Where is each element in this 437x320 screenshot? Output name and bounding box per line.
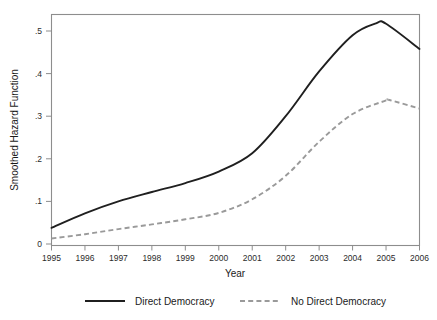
legend-label-no-direct-democracy: No Direct Democracy <box>291 296 386 307</box>
y-tick-label-5: .5 <box>35 26 42 36</box>
x-tick-label-1996: 1996 <box>75 253 94 263</box>
y-axis-title: Smoothed Hazard Function <box>9 69 20 191</box>
plot-frame <box>52 15 420 246</box>
x-tick-label-2000: 2000 <box>209 253 228 263</box>
hazard-function-chart: 0 .1 .2 .3 .4 .5 Smoothed Hazard Functio… <box>0 0 437 320</box>
series-line-no-direct-democracy <box>52 99 420 239</box>
y-tick-label-4: .4 <box>35 69 42 79</box>
x-tick-label-1998: 1998 <box>142 253 161 263</box>
x-axis-title: Year <box>225 268 246 279</box>
x-tick-label-1995: 1995 <box>42 253 61 263</box>
x-tick-label-2004: 2004 <box>343 253 362 263</box>
series-line-direct-democracy <box>52 21 420 228</box>
y-tick-label-2: .2 <box>35 154 42 164</box>
y-axis: 0 .1 .2 .3 .4 .5 <box>35 26 52 249</box>
y-tick-label-0: 0 <box>37 239 42 249</box>
y-tick-label-1: .1 <box>35 196 42 206</box>
x-tick-label-1997: 1997 <box>109 253 128 263</box>
x-axis: 1995199619971998199920002001200220032004… <box>42 246 429 263</box>
x-tick-label-2005: 2005 <box>377 253 396 263</box>
x-tick-label-2003: 2003 <box>310 253 329 263</box>
legend: Direct Democracy No Direct Democracy <box>85 296 386 307</box>
x-tick-label-2002: 2002 <box>276 253 295 263</box>
x-tick-label-1999: 1999 <box>176 253 195 263</box>
x-tick-label-2006: 2006 <box>410 253 429 263</box>
y-tick-label-3: .3 <box>35 111 42 121</box>
legend-label-direct-democracy: Direct Democracy <box>135 296 214 307</box>
x-tick-label-2001: 2001 <box>243 253 262 263</box>
